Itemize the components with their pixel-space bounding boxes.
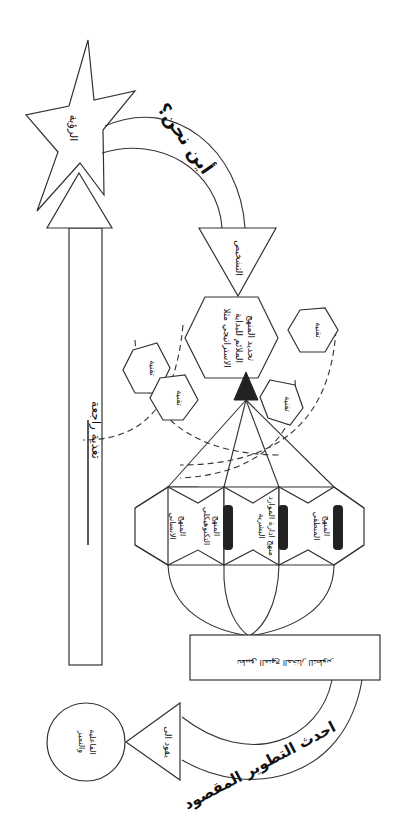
- leads-to-label: يقود الى: [163, 726, 173, 758]
- approach-2-line2: التكنوهيكلي: [202, 507, 211, 545]
- vision-label: الرؤية: [67, 115, 80, 142]
- technique-label-4: تقنية: [283, 396, 292, 411]
- outcome-line2: والتميز: [77, 730, 86, 754]
- technique-label-1: تقنية: [148, 360, 157, 375]
- technique-label-3: تقنية: [314, 322, 323, 337]
- strategy-diagram: الرؤية أين نحن؟ التشخيص تحديد المنهج الم…: [0, 0, 408, 819]
- approach-1-line1: المنهج: [178, 516, 187, 537]
- converging-arcs: [168, 565, 334, 636]
- center-hexagon-line1: تحديد المنهج: [246, 315, 256, 362]
- approach-4-line2: المنطقي: [312, 512, 321, 541]
- approach-1-line2: الانساني: [168, 512, 177, 539]
- implementation-label: تطبيق المنهج المختار للتطوير: [237, 658, 334, 667]
- approach-3-line2: البشرية: [257, 513, 266, 538]
- approach-4-line1: المنهج: [322, 516, 331, 537]
- approach-2-line1: المنهج: [212, 516, 221, 537]
- diagnosis-label: التشخيص: [234, 240, 244, 276]
- approach-3-line1: منهج ادارة الموارد: [267, 496, 276, 556]
- feedback-label: تغذية راجعة: [88, 401, 103, 459]
- connector-lines: [168, 400, 334, 487]
- center-hexagon-line3: الاستراتيجي مثلا: [222, 308, 232, 368]
- technique-hexagon-3: [288, 308, 338, 352]
- bottom-arch-label: احدث التطوير المقصود: [181, 718, 339, 813]
- technique-label-2: تقنية: [175, 390, 184, 405]
- implementation-box: [190, 635, 380, 680]
- outcome-line1: الفاعلية: [88, 729, 97, 754]
- center-hexagon-line2: الملائم للبداية: [233, 313, 244, 363]
- technique-hexagon-4: [260, 380, 303, 425]
- top-arch-label: أين نحن؟: [152, 98, 218, 178]
